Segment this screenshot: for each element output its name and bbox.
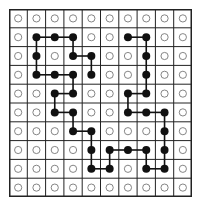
open-circle-node xyxy=(88,184,95,191)
open-circle-node xyxy=(161,184,168,191)
open-circle-node xyxy=(15,109,22,116)
open-circle-node xyxy=(106,52,113,59)
open-circle-node xyxy=(161,52,168,59)
filled-dot-node xyxy=(69,90,77,98)
filled-dot-node xyxy=(51,108,59,116)
open-circle-node xyxy=(143,15,150,22)
open-circle-node xyxy=(161,71,168,78)
filled-dot-node xyxy=(161,127,169,135)
open-circle-node xyxy=(124,71,131,78)
open-circle-node xyxy=(106,90,113,97)
open-circle-node xyxy=(124,128,131,135)
filled-dot-node xyxy=(51,71,59,79)
open-circle-node xyxy=(15,34,22,41)
filled-dot-node xyxy=(161,108,169,116)
filled-dot-node xyxy=(87,146,95,154)
open-circle-node xyxy=(69,15,76,22)
filled-dot-node xyxy=(142,71,150,79)
open-circle-node xyxy=(33,15,40,22)
filled-dot-node xyxy=(69,52,77,60)
open-circle-node xyxy=(124,165,131,172)
open-circle-node xyxy=(179,15,186,22)
filled-dot-node xyxy=(142,33,150,41)
open-circle-node xyxy=(88,90,95,97)
open-circle-node xyxy=(15,128,22,135)
open-circle-node xyxy=(161,15,168,22)
open-circle-node xyxy=(51,184,58,191)
filled-dot-node xyxy=(142,52,150,60)
open-circle-node xyxy=(179,109,186,116)
filled-dot-node xyxy=(32,52,40,60)
open-circle-node xyxy=(69,165,76,172)
filled-dot-node xyxy=(124,146,132,154)
open-circle-node xyxy=(179,71,186,78)
open-circle-node xyxy=(15,184,22,191)
filled-dot-node xyxy=(161,165,169,173)
filled-dot-node xyxy=(124,90,132,98)
filled-dot-node xyxy=(106,146,114,154)
open-circle-node xyxy=(124,184,131,191)
open-circle-node xyxy=(179,146,186,153)
open-circle-node xyxy=(179,165,186,172)
filled-dot-node xyxy=(142,146,150,154)
filled-dot-node xyxy=(124,108,132,116)
open-circle-node xyxy=(69,184,76,191)
open-circle-node xyxy=(51,15,58,22)
open-circle-node xyxy=(33,184,40,191)
open-circle-node xyxy=(179,90,186,97)
filled-dot-node xyxy=(142,108,150,116)
open-circle-node xyxy=(33,128,40,135)
open-circle-node xyxy=(51,52,58,59)
grid-svg xyxy=(9,9,192,197)
grid-board xyxy=(9,9,192,197)
filled-dot-node xyxy=(32,33,40,41)
open-circle-node xyxy=(106,71,113,78)
open-circle-node xyxy=(15,15,22,22)
open-circle-node xyxy=(51,128,58,135)
open-circle-node xyxy=(69,146,76,153)
open-circle-node xyxy=(33,109,40,116)
open-circle-node xyxy=(143,128,150,135)
open-circle-node xyxy=(51,146,58,153)
open-circle-node xyxy=(15,165,22,172)
filled-dot-node xyxy=(69,127,77,135)
filled-dot-node xyxy=(69,108,77,116)
open-circle-node xyxy=(124,15,131,22)
filled-dot-node xyxy=(69,33,77,41)
open-circle-node xyxy=(15,146,22,153)
open-circle-node xyxy=(33,165,40,172)
open-circle-node xyxy=(106,15,113,22)
filled-dot-node xyxy=(87,127,95,135)
open-circle-node xyxy=(161,90,168,97)
open-circle-node xyxy=(106,34,113,41)
filled-dot-node xyxy=(106,165,114,173)
open-circle-node xyxy=(179,52,186,59)
filled-dot-node xyxy=(124,33,132,41)
open-circle-node xyxy=(161,34,168,41)
open-circle-node xyxy=(179,128,186,135)
filled-dot-node xyxy=(69,71,77,79)
open-circle-node xyxy=(143,184,150,191)
open-circle-node xyxy=(179,34,186,41)
open-circle-node xyxy=(106,184,113,191)
open-circle-node xyxy=(124,52,131,59)
filled-dot-node xyxy=(87,52,95,60)
open-circle-node xyxy=(15,90,22,97)
filled-dot-node xyxy=(142,165,150,173)
filled-dot-node xyxy=(87,165,95,173)
open-circle-node xyxy=(88,109,95,116)
open-circle-node xyxy=(33,90,40,97)
open-circle-node xyxy=(88,34,95,41)
filled-dot-node xyxy=(142,90,150,98)
open-circle-node xyxy=(51,165,58,172)
open-circle-node xyxy=(106,109,113,116)
open-circle-node xyxy=(88,15,95,22)
open-circle-node xyxy=(33,146,40,153)
filled-dot-node xyxy=(87,71,95,79)
open-circle-node xyxy=(15,52,22,59)
open-circle-node xyxy=(106,128,113,135)
open-circle-node xyxy=(179,184,186,191)
filled-dot-node xyxy=(51,90,59,98)
filled-dot-node xyxy=(51,33,59,41)
filled-dot-node xyxy=(32,71,40,79)
